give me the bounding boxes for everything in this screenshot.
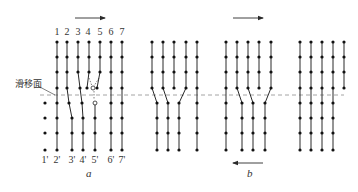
- bottom-column-label: 5': [92, 154, 99, 165]
- atom-dot: [235, 55, 238, 58]
- atom-dot: [65, 86, 68, 89]
- shear-arrows-group: [75, 18, 263, 163]
- atom-dot: [195, 116, 198, 119]
- atom-dot: [240, 116, 243, 119]
- atom-dot: [65, 70, 68, 73]
- atom-dot: [309, 55, 312, 58]
- atom-dot: [65, 55, 68, 58]
- atom-dot: [342, 86, 345, 89]
- atom-dot: [342, 55, 345, 58]
- atom-dot: [172, 40, 175, 43]
- atom-dot: [320, 55, 323, 58]
- atom-dot: [309, 86, 312, 89]
- atom-dot: [331, 131, 334, 134]
- atom-column-b2: [257, 40, 260, 89]
- atom-dot: [246, 70, 249, 73]
- dislocation-core-circle-icon: [91, 86, 95, 90]
- bottom-column-label: 7': [119, 154, 126, 165]
- atom-dot: [320, 131, 323, 134]
- atom-dot: [55, 116, 58, 119]
- atom-column-b3: [331, 40, 334, 151]
- atom-dot: [161, 55, 164, 58]
- atom-dot: [155, 131, 158, 134]
- atom-column-b1: [172, 40, 175, 89]
- atom-dot: [109, 116, 112, 119]
- atom-column-b3: [309, 40, 312, 151]
- atom-dot: [235, 40, 238, 43]
- atom-column-a: [55, 40, 58, 151]
- atom-dot: [251, 116, 254, 119]
- top-column-label: 1: [55, 26, 60, 37]
- atom-dot: [224, 86, 227, 89]
- atom-dot: [331, 148, 334, 151]
- bottom-column-label: 2': [54, 154, 61, 165]
- atom-column-b2: [246, 40, 254, 151]
- atom-dot: [43, 116, 46, 119]
- atom-dot: [331, 70, 334, 73]
- atom-columns-group: [43, 40, 345, 151]
- top-column-label: 7: [120, 26, 125, 37]
- atom-column-a: [85, 40, 90, 89]
- atom-column-a: [65, 40, 73, 151]
- atom-column-b3: [298, 40, 301, 151]
- atom-dot: [342, 70, 345, 73]
- bottom-column-label: 6': [108, 154, 115, 165]
- atom-dot: [331, 116, 334, 119]
- atom-dot: [184, 86, 187, 89]
- atom-dot: [195, 86, 198, 89]
- atom-dot: [320, 101, 323, 104]
- atom-dot: [224, 55, 227, 58]
- atom-dot: [172, 86, 175, 89]
- atom-dot: [320, 40, 323, 43]
- atom-column-b2: [224, 40, 227, 151]
- atom-dot: [195, 101, 198, 104]
- atom-dot: [78, 86, 81, 89]
- atom-dot: [298, 55, 301, 58]
- atom-column-a: [93, 101, 96, 151]
- atom-column-a: [43, 101, 46, 151]
- atom-dot: [263, 116, 266, 119]
- atom-column-b1: [177, 40, 187, 151]
- atom-dot: [342, 40, 345, 43]
- atom-dot: [150, 86, 153, 89]
- atom-dot: [269, 86, 272, 89]
- atom-dot: [298, 116, 301, 119]
- atom-dot: [251, 101, 254, 104]
- atom-dot: [172, 70, 175, 73]
- dislocation-core-circle-icon: [93, 101, 97, 105]
- atom-column-b1: [150, 40, 158, 151]
- atom-dot: [93, 116, 96, 119]
- top-column-label: 2: [65, 26, 70, 37]
- atom-dot: [177, 131, 180, 134]
- atom-dot: [98, 70, 101, 73]
- atom-dot: [263, 101, 266, 104]
- atom-dot: [298, 101, 301, 104]
- atom-column-b2: [263, 40, 272, 151]
- panel-a-label: a: [86, 167, 92, 179]
- atom-dot: [195, 40, 198, 43]
- atom-dot: [55, 70, 58, 73]
- atom-column-a: [76, 40, 84, 151]
- atom-dot: [76, 70, 79, 73]
- atom-dot: [184, 55, 187, 58]
- atom-dot: [55, 86, 58, 89]
- atom-dot: [98, 40, 101, 43]
- atom-column-a: [109, 40, 112, 151]
- atom-dot: [80, 101, 83, 104]
- atom-dot: [70, 131, 73, 134]
- atom-dot: [109, 101, 112, 104]
- atom-dot: [166, 101, 169, 104]
- atom-dot: [235, 86, 238, 89]
- atom-dot: [298, 40, 301, 43]
- atom-dot: [224, 148, 227, 151]
- atom-dot: [331, 101, 334, 104]
- atom-dot: [298, 86, 301, 89]
- atom-dot: [177, 101, 180, 104]
- atom-dot: [155, 148, 158, 151]
- atom-dot: [240, 148, 243, 151]
- atom-dot: [120, 55, 123, 58]
- atom-dot: [224, 40, 227, 43]
- atom-dot: [298, 70, 301, 73]
- bottom-column-label: 4': [80, 154, 87, 165]
- atom-dot: [120, 131, 123, 134]
